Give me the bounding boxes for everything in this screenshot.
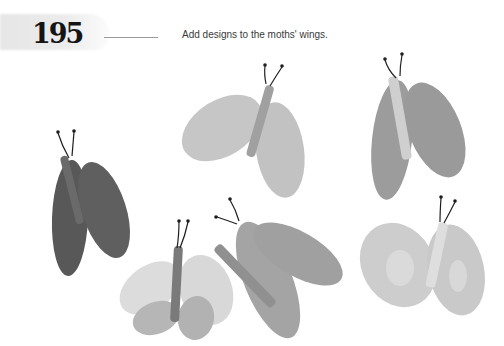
moth-6 — [345, 195, 493, 321]
moth-5 — [213, 197, 352, 346]
moths-illustration — [0, 0, 504, 346]
moth-1 — [170, 63, 311, 201]
moth-2 — [366, 52, 478, 202]
moth-3 — [50, 129, 140, 276]
